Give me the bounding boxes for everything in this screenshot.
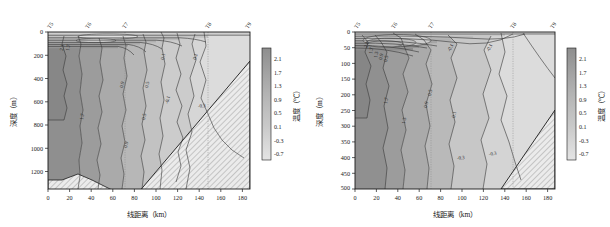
y-tick-label: 200 <box>341 91 350 98</box>
left-surface-label-stack: 2.1 1.7 <box>59 44 71 52</box>
x-tick-label: 180 <box>543 194 552 201</box>
right-panel-svg: 2.1 1.7 1.3 0.9 0.5 1.7 1.3 0.9 0.5 0.1 … <box>305 0 610 227</box>
y-tick-label: 1200 <box>31 168 43 175</box>
station-label: T9 <box>244 21 253 30</box>
colorbar-tick: 1.7 <box>579 70 587 76</box>
x-tick-label: 160 <box>216 194 225 201</box>
station-label: T6 <box>84 21 93 30</box>
x-axis-title: 线距离（km） <box>127 210 171 219</box>
y-tick-label: 50 <box>344 44 350 51</box>
x-tick-label: 180 <box>238 194 247 201</box>
x-tick-label: 40 <box>395 194 401 201</box>
colorbar-tick: 2.1 <box>274 56 282 62</box>
right-colorbar: 2.1 1.7 1.3 0.9 0.5 0.1 -0.3 -0.7 温度（℃） <box>567 48 606 160</box>
colorbar-tick: 0.9 <box>274 97 282 103</box>
y-tick-label: 1000 <box>31 145 43 152</box>
x-tick-label: 120 <box>479 194 488 201</box>
colorbar-tick: 0.5 <box>579 110 587 116</box>
x-tick-label: 60 <box>110 194 116 201</box>
colorbar-title: 温度（℃） <box>292 87 301 122</box>
x-tick-label: 140 <box>500 194 509 201</box>
colorbar-tick: -0.7 <box>579 151 589 157</box>
y-tick-label: 150 <box>341 75 350 82</box>
y-tick-label: 0 <box>40 28 43 35</box>
station-label: T7 <box>427 21 436 30</box>
right-x-axis: 0 20 40 60 80 100 120 140 160 180 线距离（km… <box>353 189 552 219</box>
colorbar-tick: -0.3 <box>274 138 284 144</box>
colorbar-tick: 1.3 <box>274 83 282 89</box>
x-tick-label: 20 <box>67 194 73 201</box>
panel-left-full-depth: 1.7 0.9 0.5 0.5 0.9 0.1 -0.1 -0.3 0.1 2.… <box>0 0 305 227</box>
x-tick-label: 80 <box>131 194 137 201</box>
right-y-axis: 0 50 100 150 200 250 300 350 400 450 500… <box>315 28 355 191</box>
x-tick-label: 20 <box>373 194 379 201</box>
x-tick-label: 140 <box>195 194 204 201</box>
x-tick-label: 0 <box>353 194 356 201</box>
x-tick-label: 120 <box>173 194 182 201</box>
y-tick-label: 600 <box>34 98 43 105</box>
colorbar-tick: 1.3 <box>579 83 587 89</box>
station-label: T5 <box>46 21 55 30</box>
colorbar-tick: 0.1 <box>274 124 282 130</box>
x-tick-label: 0 <box>46 194 49 201</box>
x-tick-label: 40 <box>88 194 94 201</box>
y-tick-label: 350 <box>341 138 350 145</box>
y-axis-title: 深度（m） <box>9 93 18 127</box>
station-label: T8 <box>509 21 518 30</box>
x-axis-title: 线距离（km） <box>433 210 477 219</box>
x-tick-label: 160 <box>522 194 531 201</box>
y-tick-label: 200 <box>34 52 43 59</box>
colorbar-tick: 1.7 <box>274 70 282 76</box>
figure-two-panel-temperature-sections: 1.7 0.9 0.5 0.5 0.9 0.1 -0.1 -0.3 0.1 2.… <box>0 0 610 227</box>
colorbar-title: 温度（℃） <box>597 87 606 122</box>
left-contour-fill: 1.7 0.9 0.5 0.5 0.9 0.1 -0.1 -0.3 0.1 <box>48 32 250 200</box>
left-station-labels: T5 T6 T7 T8 T9 <box>46 21 253 30</box>
colorbar-tick: 0.9 <box>579 97 587 103</box>
y-tick-label: 400 <box>34 75 43 82</box>
colorbar-gradient <box>262 48 271 160</box>
y-tick-label: 800 <box>34 121 43 128</box>
left-panel-svg: 1.7 0.9 0.5 0.5 0.9 0.1 -0.1 -0.3 0.1 2.… <box>0 0 305 227</box>
colorbar-gradient <box>567 48 576 160</box>
right-station-labels: T5 T6 T7 T8 T9 <box>353 21 558 30</box>
x-tick-label: 60 <box>416 194 422 201</box>
y-tick-label: 300 <box>341 122 350 129</box>
left-x-axis: 0 20 40 60 80 100 120 140 160 180 线距离（km… <box>46 189 247 219</box>
y-tick-label: 500 <box>341 184 350 191</box>
colorbar-tick: 0.1 <box>579 124 587 130</box>
y-tick-label: 0 <box>347 28 350 35</box>
station-label: T7 <box>121 21 130 30</box>
colorbar-tick: -0.7 <box>274 151 284 157</box>
station-label: T6 <box>390 21 399 30</box>
y-tick-label: 100 <box>341 60 350 67</box>
left-y-axis: 0 200 400 600 800 1000 1200 深度（m） <box>9 28 48 175</box>
left-colorbar: 2.1 1.7 1.3 0.9 0.5 0.1 -0.3 -0.7 温度（℃） <box>262 48 301 160</box>
y-tick-label: 250 <box>341 107 350 114</box>
station-label: T5 <box>353 21 362 30</box>
x-tick-label: 80 <box>438 194 444 201</box>
x-tick-label: 100 <box>151 194 160 201</box>
y-tick-label: 450 <box>341 170 350 177</box>
panel-right-upper-500m: 2.1 1.7 1.3 0.9 0.5 1.7 1.3 0.9 0.5 0.1 … <box>305 0 610 227</box>
colorbar-tick: 0.5 <box>274 110 282 116</box>
station-label: T8 <box>204 21 213 30</box>
colorbar-tick: -0.3 <box>579 138 589 144</box>
right-contour-fill: 2.1 1.7 1.3 0.9 0.5 1.7 1.3 0.9 0.5 0.1 … <box>355 32 555 189</box>
colorbar-tick: 2.1 <box>579 56 587 62</box>
x-tick-label: 100 <box>457 194 466 201</box>
y-tick-label: 400 <box>341 154 350 161</box>
y-axis-title: 深度（m） <box>315 93 324 127</box>
station-label: T9 <box>549 21 558 30</box>
